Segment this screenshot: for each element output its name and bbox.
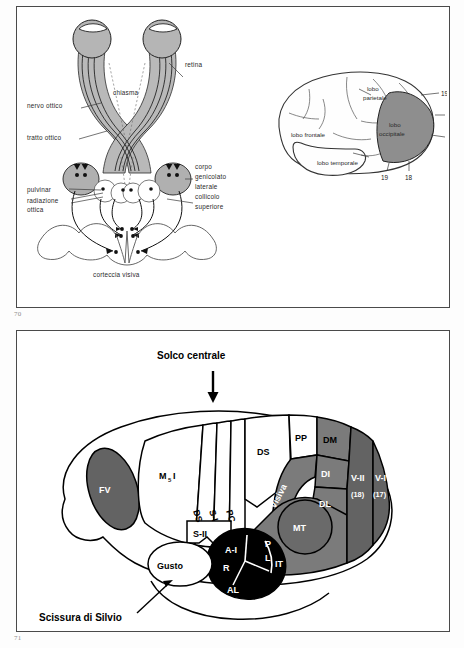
central-sulcus-arrow	[208, 371, 219, 403]
label-dl: DL	[319, 499, 331, 509]
label-parietal-lobe-1: lobo	[367, 85, 379, 92]
eye-right	[143, 20, 181, 58]
label-colliculus-1: collicolo	[195, 193, 220, 200]
lgn-left	[63, 163, 99, 195]
label-v1: V-I	[375, 473, 386, 483]
label-occipital-lobe-1: lobo	[389, 121, 401, 128]
visual-cortex-outline	[38, 224, 217, 265]
visual-pathway-figure: nervo ottico tratto ottico chiasma retin…	[17, 7, 447, 305]
page-number-71: 71	[14, 634, 22, 642]
label-ds-top: DS	[257, 447, 270, 457]
label-l: L	[265, 553, 271, 563]
label-occipital-lobe-2: occipitale	[379, 130, 405, 137]
label-colliculus-2: superiore	[195, 203, 224, 211]
cortical-areas-map: Solco centrale	[17, 331, 447, 629]
label-mt: MT	[293, 523, 306, 533]
svg-text:I: I	[173, 471, 176, 481]
visual-pathway-diagram: nervo ottico tratto ottico chiasma retin…	[27, 20, 226, 278]
label-lgn-2: genicolato	[195, 173, 226, 181]
callout-sylvian-fissure: Scissura di Silvio	[39, 612, 122, 623]
label-visual-cortex: corteccia visiva	[93, 271, 140, 278]
label-r: R	[223, 563, 230, 573]
svg-text:M: M	[159, 471, 167, 481]
label-v2: V-II	[351, 473, 365, 483]
label-retina: retina	[185, 61, 202, 68]
label-lgn-3: laterale	[195, 183, 218, 190]
brodmann-19-right: 19	[441, 90, 447, 97]
brodmann-18-bottom: 18	[405, 174, 413, 181]
label-parietal-lobe-2: parietale	[363, 94, 387, 101]
label-dm: DM	[323, 435, 337, 445]
label-v1-brodmann: (17)	[373, 490, 387, 499]
lateral-brain-diagram: lobo frontale lobo parietale lobo tempor…	[279, 72, 447, 181]
label-al: AL	[227, 585, 239, 595]
figure-panel-bottom: Solco centrale	[16, 330, 450, 632]
label-gusto: Gusto	[157, 561, 184, 571]
label-optic-radiation-2: ottica	[27, 206, 44, 213]
label-optic-tract: tratto ottico	[27, 134, 61, 141]
monkey-cortex-map: Scissura di Silvio FV M 5 I DS S-I PC DS…	[39, 411, 392, 623]
label-lgn-1: corpo	[195, 163, 212, 171]
label-di: DI	[321, 469, 330, 479]
label-pulvinar: pulvinar	[27, 186, 52, 194]
page-number-70: 70	[14, 310, 22, 318]
label-p: P	[265, 539, 271, 549]
sylvian-leader	[137, 580, 173, 613]
label-chiasm: chiasma	[113, 89, 138, 96]
figure-panel-top: nervo ottico tratto ottico chiasma retin…	[16, 6, 450, 308]
callout-central-sulcus: Solco centrale	[157, 350, 226, 361]
eye-left	[73, 20, 111, 58]
label-a1: A-I	[225, 545, 237, 555]
label-temporal-lobe: lobo temporale	[317, 159, 358, 166]
label-v2-brodmann: (18)	[351, 490, 365, 499]
brodmann-19-bottom: 19	[381, 174, 389, 181]
label-frontal-lobe: lobo frontale	[291, 131, 326, 138]
label-optic-nerve: nervo ottico	[27, 102, 63, 109]
label-it: IT	[275, 559, 284, 569]
label-optic-radiation-1: radiazione	[27, 197, 59, 204]
label-s2: S-II	[193, 529, 207, 539]
pulvinar-right	[138, 180, 160, 202]
label-pp: PP	[295, 433, 307, 443]
scanned-textbook-page: nervo ottico tratto ottico chiasma retin…	[0, 0, 464, 648]
label-fv: FV	[99, 485, 111, 495]
